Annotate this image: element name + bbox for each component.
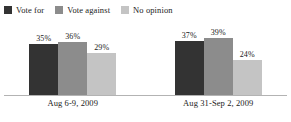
legend-item-vote-for: Vote for (4, 5, 44, 15)
plot-area: 35% 36% 29% 37% 39% (0, 22, 291, 96)
bar-groups: 35% 36% 29% 37% 39% (0, 22, 291, 96)
legend-item-no-opinion: No opinion (121, 5, 173, 15)
axis-baseline (4, 95, 287, 96)
bar-group-aug-31-sep-2-2009: 37% 39% 24% (175, 21, 262, 96)
bar-wrap: 35% (29, 21, 58, 95)
grouped-bar-chart: Vote for Vote against No opinion 35% 36% (0, 0, 291, 122)
category-axis-labels: Aug 6-9, 2009 Aug 31-Sep 2, 2009 (0, 98, 291, 114)
bar-vote-against (58, 42, 87, 95)
bar-value-label: 24% (240, 50, 255, 59)
bar-wrap: 39% (204, 21, 233, 95)
category-label-2: Aug 31-Sep 2, 2009 (163, 98, 273, 108)
legend-label-vote-against: Vote against (67, 5, 110, 15)
legend-swatch-vote-against (55, 6, 63, 14)
legend-label-no-opinion: No opinion (133, 5, 173, 15)
bar-value-label: 29% (94, 43, 109, 52)
bar-wrap: 37% (175, 21, 204, 95)
bar-wrap: 24% (233, 21, 262, 95)
bar-vote-for (29, 44, 58, 95)
bar-group-aug-6-9-2009: 35% 36% 29% (29, 21, 116, 96)
bar-value-label: 37% (182, 31, 197, 40)
bar-value-label: 39% (211, 28, 226, 37)
bar-vote-for (175, 41, 204, 95)
bar-no-opinion (233, 60, 262, 95)
bar-value-label: 36% (65, 32, 80, 41)
bar-no-opinion (87, 53, 116, 95)
bar-value-label: 35% (36, 34, 51, 43)
bar-vote-against (204, 38, 233, 95)
chart-legend: Vote for Vote against No opinion (4, 3, 184, 17)
legend-label-vote-for: Vote for (16, 5, 44, 15)
bar-wrap: 36% (58, 21, 87, 95)
legend-swatch-no-opinion (121, 6, 129, 14)
bar-wrap: 29% (87, 21, 116, 95)
legend-swatch-vote-for (4, 6, 12, 14)
legend-item-vote-against: Vote against (55, 5, 110, 15)
category-label-1: Aug 6-9, 2009 (18, 98, 128, 108)
